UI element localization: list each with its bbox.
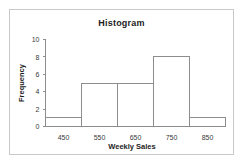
chart-frame: Histogram 0246810 450550650750850 Freque… xyxy=(9,9,234,155)
x-tick-label: 650 xyxy=(130,134,142,141)
y-tick-label: 2 xyxy=(36,106,40,113)
x-tick-labels: 450550650750850 xyxy=(58,134,214,141)
x-tick-label: 750 xyxy=(166,134,178,141)
y-axis xyxy=(43,40,46,127)
histogram-bar xyxy=(46,118,82,127)
y-tick-label: 0 xyxy=(36,123,40,130)
y-axis-title: Frequency xyxy=(17,63,26,102)
y-tick-label: 4 xyxy=(36,88,40,95)
y-tick-label: 6 xyxy=(36,71,40,78)
histogram-bars xyxy=(46,57,226,127)
y-tick-label: 10 xyxy=(32,36,40,43)
histogram-bar xyxy=(190,118,226,127)
histogram-bar xyxy=(118,83,154,127)
y-tick-label: 8 xyxy=(36,54,40,61)
histogram-plot: 0246810 450550650750850 Frequency Weekly… xyxy=(10,10,235,156)
histogram-bar xyxy=(82,83,118,127)
x-axis-title: Weekly Sales xyxy=(108,142,155,151)
x-tick-label: 850 xyxy=(202,134,214,141)
histogram-bar xyxy=(154,57,190,127)
x-tick-label: 450 xyxy=(58,134,70,141)
x-tick-label: 550 xyxy=(94,134,106,141)
y-tick-labels: 0246810 xyxy=(32,36,40,130)
